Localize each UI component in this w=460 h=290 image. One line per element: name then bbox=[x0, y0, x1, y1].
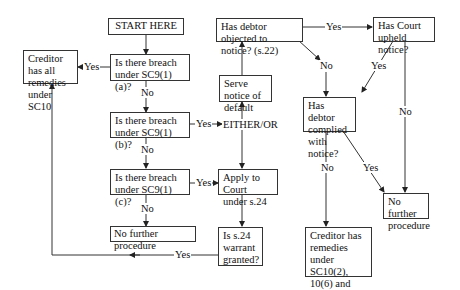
edge-label-yes: Yes bbox=[325, 21, 342, 32]
serve-notice-node: Serve notice of default bbox=[219, 75, 272, 102]
no-further-procedure-node: No further procedure bbox=[110, 226, 196, 242]
question-breach-c: Is there breach under SC9(1)(c)? bbox=[110, 169, 190, 195]
creditor-all-remedies-node: Creditor has all remedies under SC10 bbox=[23, 50, 78, 84]
flowchart: START HERE Is there breach under SC9(1)(… bbox=[0, 0, 460, 290]
court-upheld-question: Has Court upheld notice? bbox=[373, 17, 435, 42]
edge-label-yes: Yes bbox=[195, 118, 212, 129]
edge-label-yes: Yes bbox=[362, 162, 379, 173]
apply-court-node: Apply to Court under s.24 bbox=[218, 169, 278, 195]
creditor-remedies-node: Creditor has remedies under SC10(2), 10(… bbox=[305, 227, 372, 277]
debtor-objected-question: Has debtor objected to notice? (s.22) bbox=[216, 18, 303, 42]
edge-label-yes: Yes bbox=[174, 249, 191, 260]
edge-label-no: No bbox=[398, 106, 413, 117]
edge-label-yes: Yes bbox=[83, 61, 100, 72]
question-breach-a: Is there breach under SC9(1)(a)? bbox=[110, 54, 190, 81]
edge-label-no: No bbox=[140, 87, 155, 98]
edge-label-yes: Yes bbox=[370, 60, 387, 71]
edge-label-no: No bbox=[320, 162, 335, 173]
debtor-complied-question: Has debtor complied with notice? bbox=[303, 97, 356, 132]
question-breach-b: Is there breach under SC9(1)(b)? bbox=[110, 112, 190, 138]
either-or-label: EITHER/OR bbox=[222, 119, 279, 130]
edge-label-yes: Yes bbox=[195, 177, 212, 188]
s24-warrant-question: Is s.24 warrant granted? bbox=[218, 227, 263, 266]
start-node: START HERE bbox=[108, 18, 184, 35]
no-further-procedure-node-2: No further procedure bbox=[383, 193, 429, 219]
edge-label-no: No bbox=[319, 60, 334, 71]
edge-label-no: No bbox=[140, 144, 155, 155]
edge-label-no: No bbox=[140, 203, 155, 214]
